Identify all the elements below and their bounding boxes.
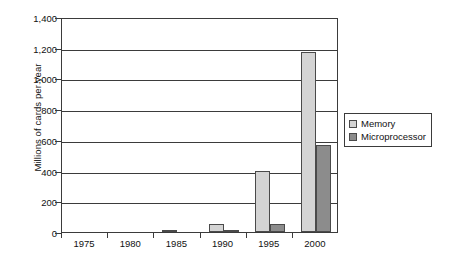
bar-memory-1990 — [209, 224, 224, 232]
gridline — [62, 173, 337, 174]
y-tick-label: 400 — [9, 166, 57, 177]
x-tick-label: 1980 — [107, 238, 153, 249]
x-tick-mark — [153, 233, 154, 238]
x-tick-mark — [107, 233, 108, 238]
bar-microprocessor-1990 — [224, 230, 239, 232]
gridline — [62, 203, 337, 204]
legend-item-memory: Memory — [349, 117, 426, 130]
bar-microprocessor-1995 — [270, 224, 285, 232]
chart-legend: Memory Microprocessor — [344, 113, 432, 147]
bar-memory-1995 — [255, 171, 270, 232]
y-tick-label: 1,400 — [9, 13, 57, 24]
y-tick-label: 1,000 — [9, 74, 57, 85]
bar-chart: Millions of cards per year 0200400600800… — [0, 0, 449, 265]
y-tick-label: 1,200 — [9, 43, 57, 54]
x-tick-mark — [61, 233, 62, 238]
x-tick-mark — [292, 233, 293, 238]
legend-item-microprocessor: Microprocessor — [349, 130, 426, 143]
y-tick-label: 800 — [9, 105, 57, 116]
bar-memory-2000 — [301, 52, 316, 232]
gridline — [62, 50, 337, 51]
x-tick-mark — [246, 233, 247, 238]
x-tick-label: 2000 — [292, 238, 338, 249]
y-tick-label: 600 — [9, 135, 57, 146]
bar-microprocessor-2000 — [316, 145, 331, 232]
light-gray-swatch-icon — [349, 120, 357, 128]
x-tick-label: 1990 — [200, 238, 246, 249]
plot-area — [61, 18, 338, 233]
gridline — [62, 111, 337, 112]
y-tick-label: 200 — [9, 197, 57, 208]
dark-gray-swatch-icon — [349, 133, 357, 141]
x-tick-label: 1995 — [246, 238, 292, 249]
y-tick-label: 0 — [9, 228, 57, 239]
gridline — [62, 80, 337, 81]
legend-label-microprocessor: Microprocessor — [361, 130, 426, 143]
x-tick-mark — [200, 233, 201, 238]
x-tick-label: 1975 — [61, 238, 107, 249]
bar-memory-1985 — [162, 230, 177, 232]
legend-label-memory: Memory — [361, 117, 395, 130]
x-tick-label: 1985 — [153, 238, 199, 249]
gridline — [62, 142, 337, 143]
